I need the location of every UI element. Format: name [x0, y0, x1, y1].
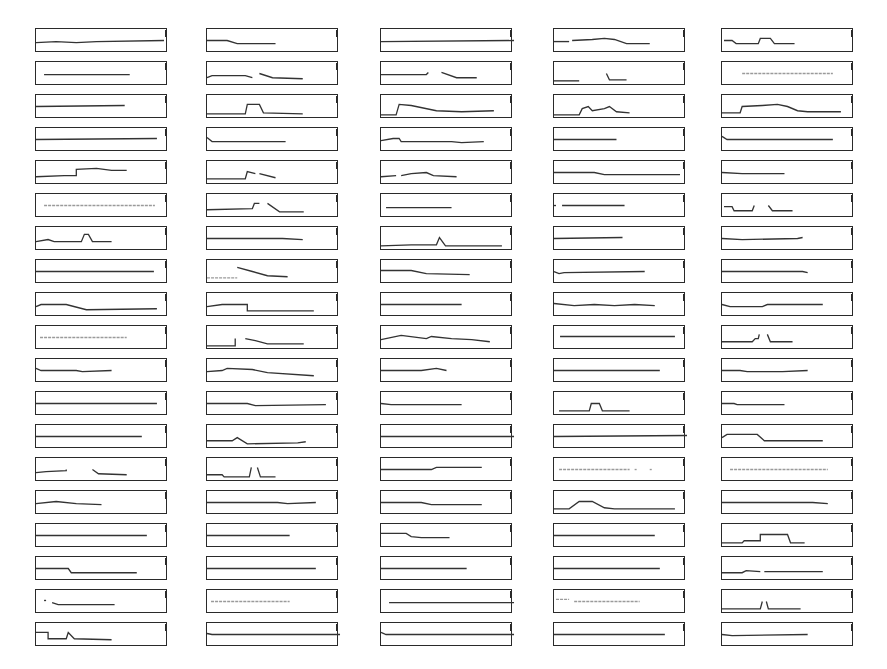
trace-panel	[553, 424, 685, 448]
trace-line	[207, 590, 337, 612]
trace-line	[36, 326, 166, 348]
scale-tick-icon	[851, 624, 853, 631]
trace-line	[722, 128, 852, 150]
trace-panel	[553, 193, 685, 217]
trace-panel	[35, 457, 167, 481]
trace-panel	[206, 622, 338, 646]
trace-line	[381, 524, 511, 546]
trace-line	[554, 491, 684, 513]
trace-panel	[721, 523, 853, 547]
trace-panel	[553, 490, 685, 514]
scale-tick-icon	[165, 195, 167, 202]
trace-line	[36, 62, 166, 84]
trace-panel	[35, 94, 167, 118]
scale-tick-icon	[851, 96, 853, 103]
scale-tick-icon	[683, 195, 685, 202]
trace-panel	[35, 127, 167, 151]
trace-panel	[553, 226, 685, 250]
trace-panel	[35, 622, 167, 646]
scale-tick-icon	[165, 228, 167, 235]
trace-line	[381, 425, 511, 447]
trace-panel	[721, 556, 853, 580]
trace-line	[722, 623, 852, 645]
trace-panel	[721, 424, 853, 448]
trace-line	[554, 590, 684, 612]
trace-line	[722, 491, 852, 513]
trace-line	[207, 62, 337, 84]
trace-line	[722, 326, 852, 348]
scale-tick-icon	[336, 96, 338, 103]
trace-panel	[553, 61, 685, 85]
scale-tick-icon	[510, 459, 512, 466]
trace-panel	[553, 94, 685, 118]
trace-panel	[206, 127, 338, 151]
trace-line	[381, 128, 511, 150]
trace-panel	[380, 61, 512, 85]
trace-panel	[206, 193, 338, 217]
scale-tick-icon	[683, 525, 685, 532]
trace-line	[554, 557, 684, 579]
trace-line	[207, 161, 337, 183]
scale-tick-icon	[683, 426, 685, 433]
trace-line	[554, 128, 684, 150]
scale-tick-icon	[336, 426, 338, 433]
trace-line	[36, 392, 166, 414]
trace-panel	[35, 160, 167, 184]
caption-cutoff	[0, 660, 887, 669]
trace-panel	[35, 226, 167, 250]
trace-panel	[206, 28, 338, 52]
scale-tick-icon	[336, 129, 338, 136]
trace-panel	[553, 457, 685, 481]
trace-line	[722, 62, 852, 84]
trace-line	[36, 623, 166, 645]
scale-tick-icon	[851, 327, 853, 334]
trace-panel	[721, 127, 853, 151]
scale-tick-icon	[165, 360, 167, 367]
scale-tick-icon	[683, 30, 685, 37]
trace-panel	[380, 160, 512, 184]
trace-line	[381, 293, 511, 315]
trace-panel	[380, 622, 512, 646]
scale-tick-icon	[510, 624, 512, 631]
trace-line	[207, 557, 337, 579]
scale-tick-icon	[683, 591, 685, 598]
scale-tick-icon	[336, 393, 338, 400]
scale-tick-icon	[510, 228, 512, 235]
trace-panel	[35, 193, 167, 217]
trace-panel	[721, 160, 853, 184]
scale-tick-icon	[683, 228, 685, 235]
trace-line	[554, 260, 684, 282]
trace-panel	[553, 358, 685, 382]
trace-panel	[553, 325, 685, 349]
trace-panel	[380, 193, 512, 217]
trace-panel	[35, 391, 167, 415]
trace-panel	[380, 424, 512, 448]
scale-tick-icon	[165, 459, 167, 466]
trace-panel	[721, 325, 853, 349]
scale-tick-icon	[851, 459, 853, 466]
trace-line	[722, 293, 852, 315]
trace-line	[36, 359, 166, 381]
trace-panel	[553, 28, 685, 52]
trace-line	[381, 260, 511, 282]
scale-tick-icon	[851, 492, 853, 499]
trace-line	[554, 161, 684, 183]
scale-tick-icon	[851, 162, 853, 169]
trace-line	[554, 194, 684, 216]
trace-panel	[35, 424, 167, 448]
trace-line	[554, 227, 684, 249]
trace-panel	[35, 523, 167, 547]
scale-tick-icon	[683, 129, 685, 136]
trace-panel	[35, 556, 167, 580]
trace-line	[722, 425, 852, 447]
trace-line	[722, 359, 852, 381]
trace-panel	[206, 490, 338, 514]
trace-line	[381, 557, 511, 579]
trace-panel	[553, 160, 685, 184]
scale-tick-icon	[336, 261, 338, 268]
trace-line	[207, 491, 337, 513]
trace-line	[554, 359, 684, 381]
trace-line	[381, 161, 511, 183]
trace-line	[36, 293, 166, 315]
trace-line	[207, 293, 337, 315]
